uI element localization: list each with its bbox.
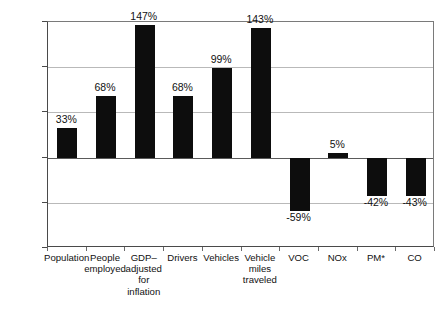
gridline <box>48 67 433 68</box>
bar <box>57 128 77 158</box>
x-category-label: CO <box>392 252 437 263</box>
bar <box>367 158 387 196</box>
bar-chart: 150%100%50%0%-50%-100% 33%68%147%68%99%1… <box>0 0 448 312</box>
x-tick-mark <box>241 247 242 251</box>
bar <box>290 158 310 211</box>
bar-value-label: 5% <box>311 139 363 150</box>
bar-value-label: 68% <box>156 82 208 93</box>
bar <box>135 25 155 158</box>
x-tick-mark <box>318 247 319 251</box>
x-category-line: traveled <box>238 274 283 285</box>
x-tick-mark <box>163 247 164 251</box>
bar <box>406 158 426 197</box>
x-category-line: CO <box>392 252 437 263</box>
x-tick-mark <box>279 247 280 251</box>
bar-value-label: 33% <box>40 114 92 125</box>
bar-value-label: 68% <box>79 82 131 93</box>
x-tick-mark <box>47 247 48 251</box>
bar-value-label: -59% <box>273 212 325 223</box>
x-category-line: adjusted <box>121 263 166 274</box>
x-tick-mark <box>202 247 203 251</box>
x-tick-mark <box>124 247 125 251</box>
bar <box>328 153 348 158</box>
bar-value-label: 147% <box>118 11 170 22</box>
x-category-line: miles <box>238 263 283 274</box>
bar <box>251 28 271 157</box>
bar-value-label: 143% <box>234 14 286 25</box>
x-tick-mark <box>395 247 396 251</box>
x-tick-mark <box>357 247 358 251</box>
bar <box>96 96 116 157</box>
x-tick-mark <box>434 247 435 251</box>
x-tick-mark <box>86 247 87 251</box>
bar-value-label: 99% <box>195 54 247 65</box>
x-category-line: for <box>121 274 166 285</box>
bar <box>173 96 193 157</box>
bar <box>212 68 232 157</box>
x-category-line: inflation <box>121 286 166 297</box>
bar-value-label: -43% <box>389 197 441 208</box>
